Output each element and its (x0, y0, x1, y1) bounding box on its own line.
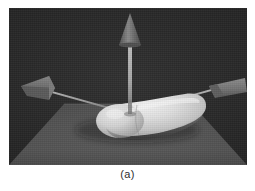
axis-shaft-blob-intersection (124, 112, 136, 117)
blob-head-highlight (106, 109, 124, 119)
rendered-3d-scene (9, 8, 247, 165)
axis-arrow-up-head-base (119, 42, 141, 47)
figure-root: (a) (0, 0, 255, 191)
figure-caption: (a) (0, 168, 255, 180)
scene-canvas (9, 8, 247, 165)
